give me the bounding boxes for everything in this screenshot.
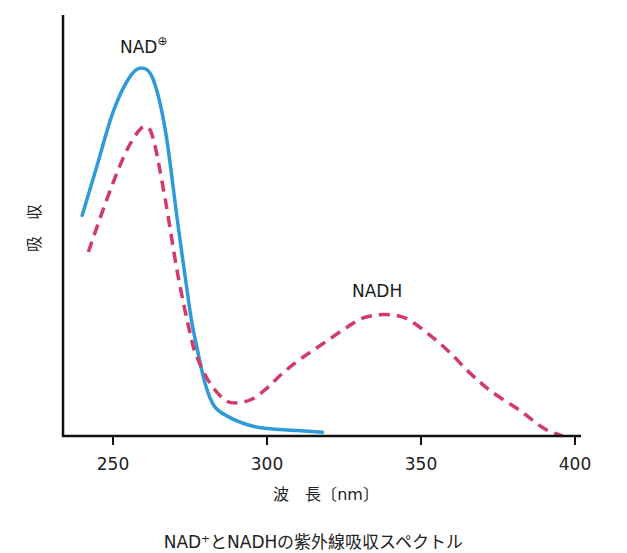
x-tick-label: 400	[559, 454, 591, 474]
nad-plus-curve	[82, 68, 322, 432]
y-axis-title: 吸 収	[25, 204, 44, 252]
x-axis-title: 波 長〔nm〕	[273, 485, 379, 504]
x-tick-label: 250	[97, 454, 129, 474]
figure-caption: NAD⁺とNADHの紫外線吸収スペクトル	[0, 528, 627, 553]
plus-circle-superscript: ⊕	[157, 34, 167, 48]
nadh-label: NADH	[352, 281, 402, 301]
x-axis-ticks: 250300350400	[97, 436, 591, 474]
x-tick-label: 350	[405, 454, 437, 474]
plot-area	[82, 68, 563, 436]
x-tick-label: 300	[251, 454, 283, 474]
nad-plus-label: NAD⊕	[120, 34, 168, 57]
nadh-curve	[88, 127, 562, 436]
